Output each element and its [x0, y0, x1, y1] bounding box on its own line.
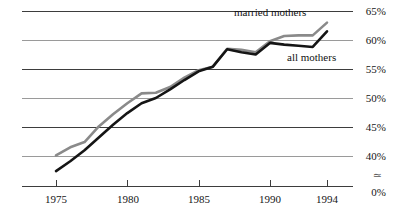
- x-axis-ticks-group: [57, 180, 328, 186]
- series-label-all-mothers: all mothers: [287, 52, 336, 63]
- y-axis-label-40pct: 40%: [356, 151, 386, 162]
- chart-container: 65%60%55%50%45%40%0% 1975198019851990199…: [0, 0, 394, 218]
- y-axis-label-50pct: 50%: [356, 93, 386, 104]
- series-lines-group: [56, 23, 327, 171]
- series-line-married-mothers: [56, 23, 327, 156]
- x-axis-label-1994: 1994: [307, 194, 347, 205]
- y-axis-label-65pct: 65%: [356, 6, 386, 17]
- x-axis-label-1990: 1990: [250, 194, 290, 205]
- axis-break-icon: ≃: [352, 170, 382, 181]
- y-axis-label-55pct: 55%: [356, 64, 386, 75]
- y-axis-label-45pct: 45%: [356, 122, 386, 133]
- x-axis-label-1980: 1980: [108, 194, 148, 205]
- y-axis-label-0pct: 0%: [356, 187, 386, 198]
- series-label-married-mothers: married mothers: [234, 7, 306, 18]
- chart-plot-area: [0, 0, 394, 218]
- x-axis-label-1975: 1975: [36, 194, 76, 205]
- y-axis-label-60pct: 60%: [356, 35, 386, 46]
- x-axis-label-1985: 1985: [179, 194, 219, 205]
